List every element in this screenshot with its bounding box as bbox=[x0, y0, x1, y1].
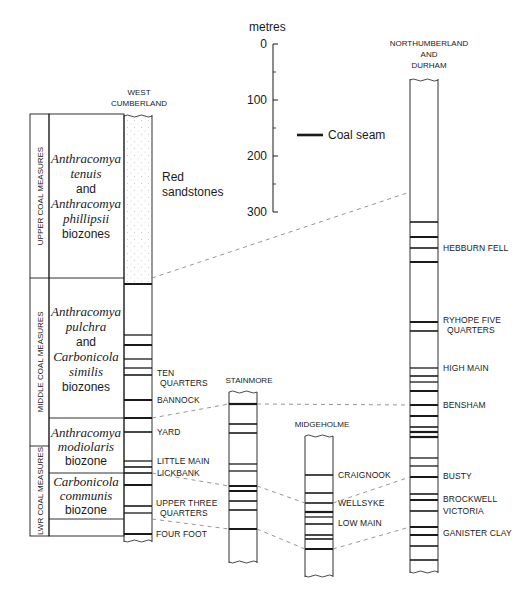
red-sandstones-fill bbox=[124, 115, 152, 283]
scale-unit-label: metres bbox=[249, 20, 286, 34]
stainmore-seams bbox=[229, 404, 257, 529]
correlation-stainmore-bensham bbox=[257, 404, 410, 405]
svg-text:biozone: biozone bbox=[65, 454, 107, 468]
seam-label-hebburn-fell: HEBBURN FELL bbox=[443, 243, 509, 253]
seam-label-low-main: LOW MAIN bbox=[338, 518, 382, 528]
correlation-stainmore-midgeholme bbox=[257, 529, 305, 549]
correlation-upper-boundary bbox=[152, 192, 410, 278]
svg-text:tenuis: tenuis bbox=[70, 166, 101, 181]
seam-label-little-main: LITTLE MAIN bbox=[157, 456, 210, 466]
midgeholme-title: MIDGEHOLME bbox=[295, 420, 350, 429]
scale-tick-0: 0 bbox=[260, 37, 267, 51]
legend: Coal seam bbox=[297, 128, 385, 142]
seam-label-lickbank: LICKBANK bbox=[157, 468, 200, 478]
northumberland-durham-column: NORTHUMBERLAND AND DURHAM bbox=[390, 39, 512, 573]
svg-text:phillipsii: phillipsii bbox=[62, 211, 110, 226]
biozone-middle: Anthracomya pulchra and Carbonicola simi… bbox=[50, 304, 122, 394]
midgeholme-column: MIDGEHOLME CRAIGNOOK WELLSYKE LOW MAIN bbox=[295, 420, 391, 577]
svg-text:biozones: biozones bbox=[62, 380, 110, 394]
stainmore-title: STAINMORE bbox=[226, 376, 273, 385]
seam-label-ten-quarters-1: TEN bbox=[157, 368, 174, 378]
svg-text:communis: communis bbox=[60, 488, 113, 503]
seam-label-four-foot: FOUR FOOT bbox=[156, 529, 207, 539]
northumberland-title-1: NORTHUMBERLAND bbox=[390, 39, 469, 48]
upper-coal-measures-label: UPPER COAL MEASURES bbox=[36, 147, 45, 245]
stratigraphic-correlation-diagram: metres 0 100 200 300 Coal seam UPPER COA… bbox=[0, 0, 529, 599]
red-sandstones-label-2: sandstones bbox=[162, 185, 223, 199]
biozones-column: Anthracomya tenuis and Anthracomya phill… bbox=[49, 114, 124, 536]
seam-label-busty: BUSTY bbox=[443, 471, 472, 481]
svg-text:modiolaris: modiolaris bbox=[58, 439, 114, 454]
seam-label-craignook: CRAIGNOOK bbox=[338, 470, 391, 480]
seam-label-high-main: HIGH MAIN bbox=[443, 363, 489, 373]
svg-text:and: and bbox=[76, 182, 96, 196]
scale-tick-200: 200 bbox=[247, 149, 267, 163]
lower-coal-measures-label: LWR COAL MEASURES bbox=[36, 447, 45, 535]
correlation-midgeholme-ganister bbox=[333, 527, 410, 549]
svg-text:biozone: biozone bbox=[65, 503, 107, 517]
northumberland-seams bbox=[410, 222, 438, 560]
seam-label-brockwell: BROCKWELL bbox=[443, 494, 497, 504]
svg-text:Carbonicola: Carbonicola bbox=[53, 349, 119, 364]
svg-text:Anthracomya: Anthracomya bbox=[50, 196, 122, 211]
west-cumberland-title-2: CUMBERLAND bbox=[111, 99, 167, 108]
seam-label-bannock: BANNOCK bbox=[157, 395, 200, 405]
seam-label-ryhope-five-quarters-2: QUARTERS bbox=[447, 325, 495, 335]
west-cumberland-column: WEST CUMBERLAND Red sandstones T bbox=[111, 88, 223, 542]
svg-text:Anthracomya: Anthracomya bbox=[50, 425, 122, 440]
seam-label-victoria: VICTORIA bbox=[443, 506, 484, 516]
svg-text:biozones: biozones bbox=[62, 227, 110, 241]
svg-text:Anthracomya: Anthracomya bbox=[50, 151, 122, 166]
seam-label-upper-three-quarters-1: UPPER THREE bbox=[156, 498, 218, 508]
correlation-stainmore-wellsyke bbox=[257, 486, 305, 503]
midgeholme-seams bbox=[305, 475, 333, 549]
west-cumberland-title-1: WEST bbox=[127, 88, 150, 97]
seam-label-yard: YARD bbox=[157, 427, 180, 437]
northumberland-title-2: AND bbox=[421, 50, 438, 59]
correlation-four-foot-stainmore bbox=[152, 519, 229, 529]
seam-label-ryhope-five-quarters-1: RYHOPE FIVE bbox=[443, 315, 501, 325]
svg-text:Carbonicola: Carbonicola bbox=[53, 474, 119, 489]
biozone-modiolaris: Anthracomya modiolaris biozone bbox=[50, 425, 122, 468]
coal-measures-column: UPPER COAL MEASURES MIDDLE COAL MEASURES… bbox=[30, 114, 49, 536]
correlation-lines bbox=[152, 192, 410, 549]
svg-text:Anthracomya: Anthracomya bbox=[50, 304, 122, 319]
seam-label-wellsyke: WELLSYKE bbox=[338, 498, 385, 508]
biozone-upper: Anthracomya tenuis and Anthracomya phill… bbox=[50, 151, 122, 241]
biozone-communis: Carbonicola communis biozone bbox=[53, 474, 119, 517]
seam-label-upper-three-quarters-2: QUARTERS bbox=[160, 508, 208, 518]
seam-label-bensham: BENSHAM bbox=[443, 400, 486, 410]
correlation-bannock-stainmore bbox=[152, 404, 229, 418]
middle-coal-measures-label: MIDDLE COAL MEASURES bbox=[36, 311, 45, 412]
west-cumberland-seams bbox=[124, 284, 152, 534]
svg-text:similis: similis bbox=[69, 364, 103, 379]
svg-text:pulchra: pulchra bbox=[65, 319, 107, 334]
depth-scale: metres 0 100 200 300 bbox=[247, 20, 286, 219]
seam-label-ten-quarters-2: QUARTERS bbox=[160, 378, 208, 388]
seam-label-ganister-clay: GANISTER CLAY bbox=[443, 528, 512, 538]
svg-text:and: and bbox=[76, 335, 96, 349]
red-sandstones-label-1: Red bbox=[162, 170, 184, 184]
scale-tick-300: 300 bbox=[247, 205, 267, 219]
northumberland-title-3: DURHAM bbox=[411, 61, 446, 70]
legend-coal-seam-label: Coal seam bbox=[328, 128, 385, 142]
scale-tick-100: 100 bbox=[247, 93, 267, 107]
